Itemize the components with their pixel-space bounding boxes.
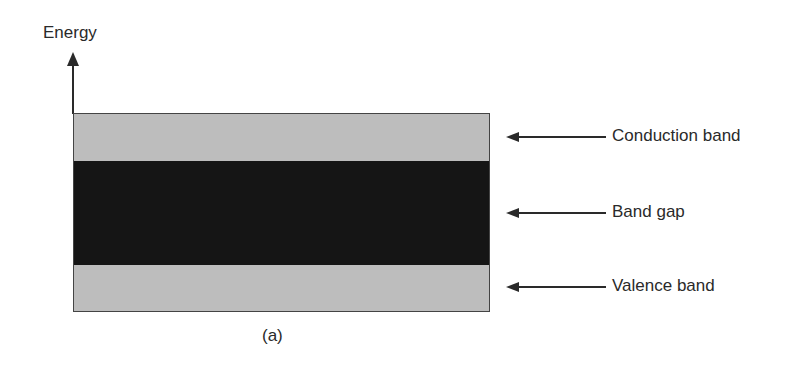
energy-axis-label: Energy — [43, 24, 97, 41]
conduction-band-region — [74, 114, 489, 161]
conduction-label: Conduction band — [612, 127, 741, 144]
band-gap-region — [74, 161, 489, 265]
pointer-line — [517, 136, 606, 138]
pointer-line — [517, 212, 606, 214]
valence-label: Valence band — [612, 277, 715, 294]
figure-caption: (a) — [262, 326, 283, 346]
pointer-line — [517, 286, 606, 288]
band-diagram — [73, 113, 490, 312]
energy-axis-line — [72, 64, 74, 114]
valence-band-region — [74, 265, 489, 311]
gap-label: Band gap — [612, 203, 685, 220]
